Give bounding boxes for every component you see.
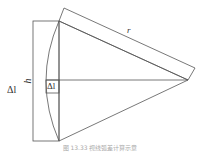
geometry-diagram — [0, 0, 199, 154]
delta-l-inner-label: Δl — [47, 82, 55, 91]
delta-l-outer-label: Δl — [7, 85, 16, 95]
figure-caption: 图 13.33 视线弧差计算示意 — [30, 143, 170, 152]
h-label: h — [23, 79, 33, 84]
lower-radius-line — [59, 80, 188, 141]
r-label: r — [127, 26, 131, 35]
r-dimension-band — [59, 8, 195, 80]
